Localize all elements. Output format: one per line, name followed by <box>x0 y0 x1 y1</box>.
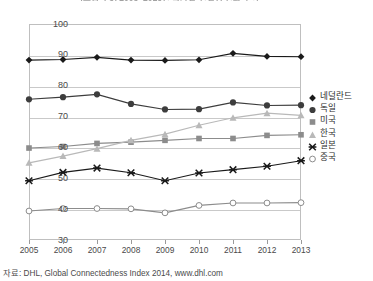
y-axis-tick-label: 40 <box>44 205 68 214</box>
data-point-circle <box>264 102 270 108</box>
series-line <box>29 161 301 181</box>
data-point-circle <box>309 107 315 113</box>
x-axis-tickmark <box>301 240 302 244</box>
data-point-diamond <box>26 57 33 64</box>
x-axis-tick-label: 2011 <box>216 246 250 255</box>
data-point-square <box>196 136 202 142</box>
data-point-diamond <box>128 57 135 64</box>
data-point-square <box>264 133 270 139</box>
x-axis-tickmark <box>267 240 268 244</box>
data-point-open-circle <box>94 206 100 212</box>
data-point-open-circle <box>230 200 236 206</box>
legend-label: 한국 <box>319 128 336 138</box>
data-point-diamond <box>230 50 237 57</box>
x-axis-tickmark <box>199 240 200 244</box>
data-point-open-circle <box>162 210 168 216</box>
chart-figure: [그림 4-3] 2005~2013년 국가별 연결성 변화 추이 네덜란드독일… <box>0 0 373 281</box>
data-point-x <box>263 163 271 170</box>
data-point-diamond <box>264 53 271 60</box>
data-point-open-circle <box>26 208 32 214</box>
x-axis-tick-label: 2009 <box>148 246 182 255</box>
data-point-square <box>162 138 168 144</box>
x-axis-tick-label: 2008 <box>114 246 148 255</box>
x-axis-tick-label: 2013 <box>284 246 318 255</box>
data-point-open-circle <box>128 206 134 212</box>
legend-marker-circle-icon <box>306 102 319 114</box>
x-axis-tickmark <box>29 240 30 244</box>
chart-legend: 네덜란드독일미국한국일본중국 <box>306 90 372 163</box>
legend-label: 네덜란드 <box>319 91 352 101</box>
legend-item-2[interactable]: 미국 <box>306 114 372 126</box>
data-point-circle <box>196 106 202 112</box>
legend-label: 미국 <box>319 115 336 125</box>
data-point-x <box>297 157 305 164</box>
data-point-diamond <box>162 57 169 64</box>
x-axis-tick-label: 2005 <box>12 246 46 255</box>
data-point-x <box>229 166 237 173</box>
data-point-open-circle <box>264 200 270 206</box>
x-axis-tick-label: 2012 <box>250 246 284 255</box>
data-point-x <box>309 144 317 151</box>
legend-marker-open-circle-icon <box>306 151 319 163</box>
legend-marker-diamond-icon <box>306 90 319 102</box>
data-point-x <box>195 170 203 177</box>
y-axis-tick-label: 60 <box>44 143 68 152</box>
x-axis-tick-label: 2006 <box>46 246 80 255</box>
data-point-circle <box>94 91 100 97</box>
data-point-diamond <box>196 56 203 63</box>
data-point-triangle <box>309 131 316 137</box>
data-point-circle <box>60 94 66 100</box>
data-point-open-circle <box>298 200 304 206</box>
legend-item-0[interactable]: 네덜란드 <box>306 90 372 102</box>
data-point-x <box>93 165 101 172</box>
x-axis-tickmark <box>233 240 234 244</box>
y-axis-tick-label: 90 <box>44 50 68 59</box>
x-axis-tickmark <box>131 240 132 244</box>
data-point-circle <box>162 106 168 112</box>
y-axis-tick-label: 50 <box>44 174 68 183</box>
data-point-x <box>25 177 33 184</box>
legend-label: 중국 <box>319 152 336 162</box>
data-point-diamond <box>298 53 305 60</box>
legend-item-1[interactable]: 독일 <box>306 102 372 114</box>
legend-marker-square-icon <box>306 114 319 126</box>
x-axis-tickmark <box>63 240 64 244</box>
legend-marker-x-icon <box>306 139 319 151</box>
data-point-diamond <box>309 95 316 102</box>
data-point-circle <box>298 102 304 108</box>
x-axis-tick-label: 2007 <box>80 246 114 255</box>
legend-label: 독일 <box>319 103 336 113</box>
data-point-diamond <box>94 54 101 61</box>
legend-item-3[interactable]: 한국 <box>306 127 372 139</box>
y-axis-tick-label: 100 <box>44 20 68 29</box>
data-point-square <box>26 145 32 151</box>
data-point-circle <box>128 101 134 107</box>
data-point-circle <box>26 96 32 102</box>
x-axis-tickmark <box>165 240 166 244</box>
data-point-x <box>161 177 169 184</box>
x-axis-tickmark <box>97 240 98 244</box>
data-point-x <box>127 169 135 176</box>
data-point-square <box>298 132 304 138</box>
legend-label: 일본 <box>319 140 336 150</box>
data-point-square <box>230 136 236 142</box>
data-point-circle <box>230 99 236 105</box>
data-point-open-circle <box>310 156 316 162</box>
y-axis-tick-label: 30 <box>44 236 68 245</box>
x-axis-tick-label: 2010 <box>182 246 216 255</box>
series-1 <box>26 91 304 112</box>
legend-marker-triangle-icon <box>306 127 319 139</box>
source-note: 자료: DHL, Global Connectedness Index 2014… <box>3 266 223 278</box>
data-point-square <box>310 120 316 126</box>
legend-item-4[interactable]: 일본 <box>306 139 372 151</box>
data-point-open-circle <box>196 203 202 209</box>
y-axis-tick-label: 70 <box>44 112 68 121</box>
legend-item-5[interactable]: 중국 <box>306 151 372 163</box>
y-axis-tick-label: 80 <box>44 81 68 90</box>
